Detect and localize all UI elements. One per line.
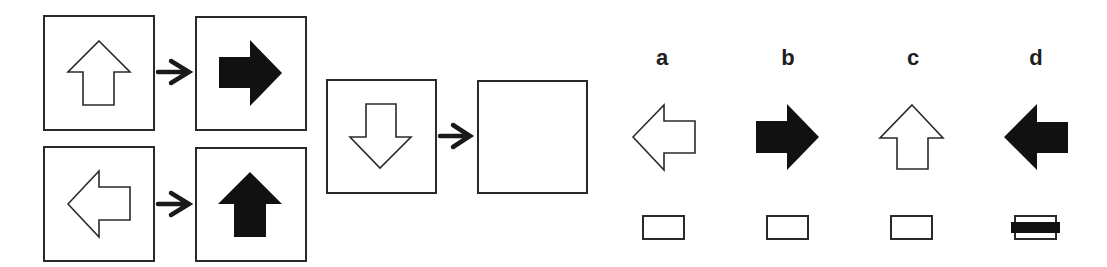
option-a-answer-box[interactable] (642, 215, 685, 240)
option-d-left-arrow-solid-icon (0, 0, 1107, 267)
option-c-answer-box[interactable] (890, 215, 933, 240)
option-d-answer-box-marked[interactable] (1014, 215, 1057, 240)
option-b-answer-box[interactable] (766, 215, 809, 240)
